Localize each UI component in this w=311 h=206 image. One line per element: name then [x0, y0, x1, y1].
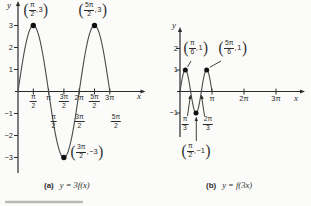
fraction: π2: [50, 114, 57, 130]
arrowhead-icon: [178, 27, 182, 32]
fraction: 5π2: [111, 114, 121, 130]
x-tick-label: π2: [30, 94, 37, 110]
point-label: (π6, 1): [183, 40, 209, 56]
x-tick-label-secondary: 2π3: [203, 116, 213, 132]
data-point-dot: [204, 68, 209, 73]
y-tick-label: 1: [0, 66, 13, 74]
y-tick-label: 2: [164, 45, 178, 53]
caption-a-formula: y = 3f(x): [60, 180, 90, 190]
plot-canvas: [0, 0, 311, 206]
caption-b: (b) y = f(3x): [206, 180, 252, 190]
x-tick-label-secondary: 3π2: [74, 114, 84, 130]
x-tick-label: 5π2: [89, 94, 99, 110]
y-tick-label: 3: [0, 22, 13, 30]
x-tick-label: 3π: [271, 95, 280, 103]
x-tick-label: 2π: [239, 95, 248, 103]
arrowhead-icon: [16, 1, 20, 6]
point-label: (5π6, 1): [218, 40, 247, 56]
fraction: π2: [29, 2, 36, 18]
point-label: (π2, −1): [181, 143, 211, 159]
y-tick-label: 1: [164, 66, 178, 74]
y-tick-label: −1: [164, 109, 178, 117]
caption-a-tag: (a): [44, 181, 54, 190]
point-label: (3π2, −3): [70, 144, 104, 160]
point-label: (π2, 3): [23, 2, 49, 18]
data-point-dot: [31, 23, 36, 28]
fraction: π2: [30, 94, 37, 110]
x-tick-label: π: [209, 95, 214, 103]
arrowhead-icon: [141, 89, 146, 93]
x-tick-label: 3π2: [59, 94, 69, 110]
fraction: π6: [189, 40, 196, 56]
fraction: 3π2: [76, 144, 86, 160]
y-tick-label: 2: [0, 44, 13, 52]
data-point-dot: [183, 68, 188, 73]
fraction: 2π3: [203, 116, 213, 132]
arrowhead-icon: [300, 89, 305, 93]
pointer-line: [188, 61, 192, 67]
x-tick-label: 2π: [75, 94, 84, 102]
x-tick-label-secondary: 5π2: [111, 114, 121, 130]
x-axis-label: x: [137, 92, 141, 101]
fraction: 5π6: [224, 40, 234, 56]
y-axis-label: y: [7, 1, 11, 10]
caption-b-formula: y = f(3x): [222, 180, 252, 190]
y-tick-label: −1: [0, 110, 13, 118]
data-point-dot: [194, 111, 199, 116]
fraction: 3π2: [59, 94, 69, 110]
x-tick-label-secondary: π2: [50, 114, 57, 130]
arrowhead-icon: [195, 117, 198, 121]
data-point-dot: [92, 23, 97, 28]
fraction: 3π2: [74, 114, 84, 130]
point-label: (5π2, 3): [78, 2, 107, 18]
fraction: 5π2: [89, 94, 99, 110]
pointer-line: [210, 61, 221, 67]
caption-b-tag: (b): [206, 181, 216, 190]
caption-a: (a) y = 3f(x): [44, 180, 90, 190]
x-axis-label: x: [294, 94, 298, 103]
fraction: 5π2: [84, 2, 94, 18]
y-axis-label: y: [172, 21, 176, 30]
x-tick-label: 3π: [105, 94, 114, 102]
data-point-dot: [61, 155, 66, 160]
y-tick-label: −2: [0, 132, 13, 140]
textbook-figure: π2π3π22π5π23π321−1−2−3π23π25π2(π2, 3)(5π…: [0, 0, 311, 206]
y-tick-label: −3: [0, 154, 13, 162]
fraction: π2: [187, 143, 194, 159]
x-tick-label: π: [46, 94, 51, 102]
x-tick-label-secondary: π3: [182, 116, 189, 132]
fraction: π3: [182, 116, 189, 132]
